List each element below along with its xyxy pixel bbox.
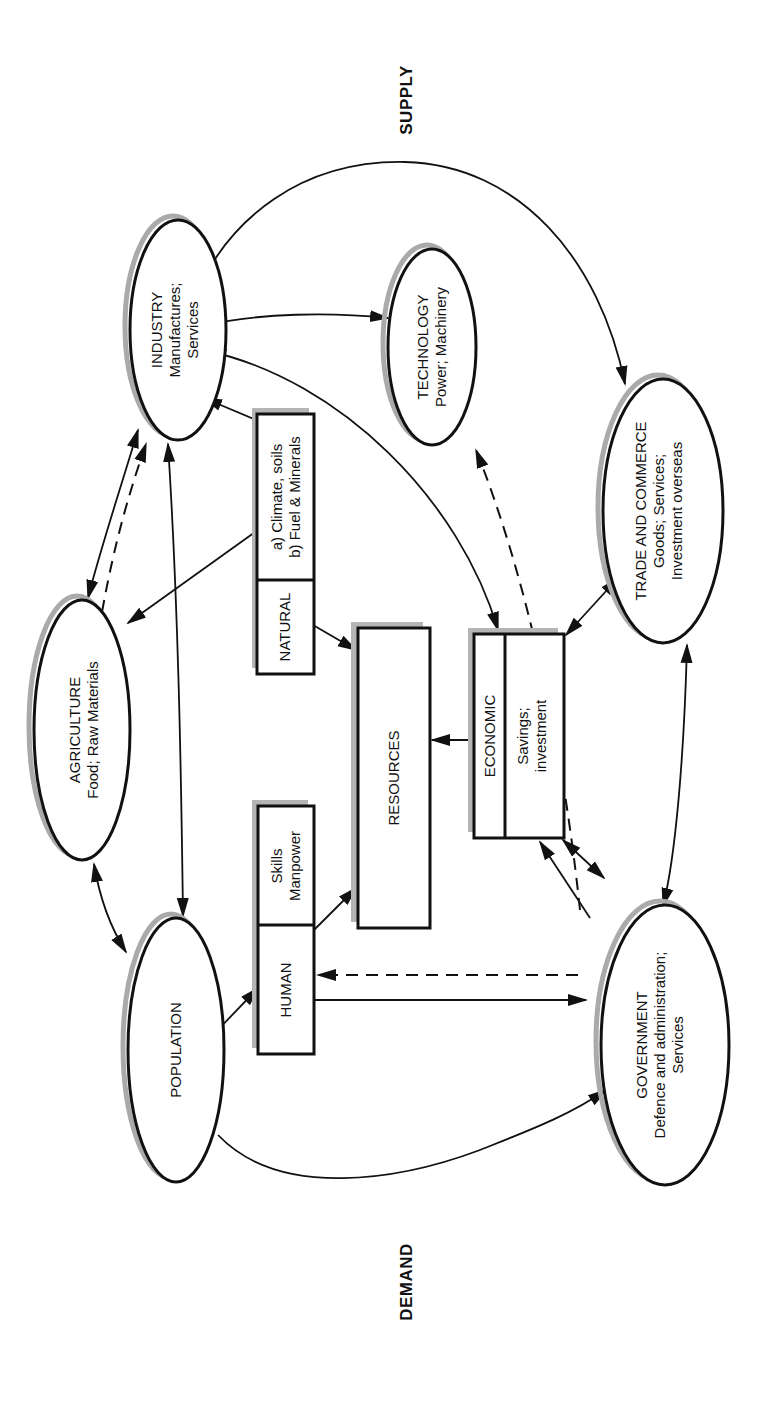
technology-title: TECHNOLOGY — [414, 294, 431, 399]
human-label: HUMAN — [277, 963, 294, 1018]
population-title: POPULATION — [167, 1002, 184, 1098]
diagram-stage: SUPPLY DEMAND — [0, 0, 758, 1424]
edge-human-resources — [314, 888, 356, 930]
supply-label: SUPPLY — [397, 65, 416, 135]
edge-industry-agriculture — [88, 430, 138, 598]
industry-title: INDUSTRY — [148, 292, 165, 368]
trade-title: TRADE AND COMMERCE — [632, 421, 649, 600]
edge-government-economic — [540, 842, 590, 918]
government-line-3: Services — [669, 1016, 686, 1074]
edge-natural-agriculture — [128, 530, 258, 623]
economic-line-2: investment — [532, 699, 549, 772]
natural-label: NATURAL — [276, 593, 293, 662]
economic-label: ECONOMIC — [481, 695, 498, 778]
industry-line-3: Services — [184, 301, 201, 359]
node-industry: INDUSTRY Manufactures; Services — [125, 216, 226, 440]
industry-line-2: Manufactures; — [166, 282, 183, 377]
natural-line-b: b) Fuel & Minerals — [286, 436, 303, 558]
node-government: GOVERNMENT Defence and administration; S… — [596, 901, 729, 1185]
agriculture-line-2: Food; Raw Materials — [84, 661, 101, 799]
government-title: GOVERNMENT — [633, 991, 650, 1099]
government-line-2: Defence and administration; — [651, 952, 668, 1139]
box-economic: ECONOMIC Savings; investment — [468, 628, 564, 838]
edge-economic-government — [563, 840, 604, 878]
economic-line-1: Savings; — [514, 707, 531, 765]
human-line-manpower: Manpower — [286, 831, 303, 901]
edge-population-industry — [168, 444, 183, 916]
edge-natural-resources — [313, 625, 356, 650]
edge-agriculture-population — [94, 864, 126, 952]
resources-label: RESOURCES — [385, 730, 402, 825]
box-natural: NATURAL a) Climate, soils b) Fuel & Mine… — [252, 408, 314, 674]
trade-line-3: Investment overseas — [668, 442, 685, 580]
trade-line-2: Goods; Services; — [650, 454, 667, 568]
human-line-skills: Skills — [268, 848, 285, 883]
node-technology: TECHNOLOGY Power; Machinery — [383, 245, 476, 445]
economy-diagram: SUPPLY DEMAND — [0, 0, 758, 1424]
box-human: HUMAN Skills Manpower — [252, 800, 314, 1054]
demand-label: DEMAND — [397, 1243, 416, 1321]
node-agriculture: AGRICULTURE Food; Raw Materials — [29, 596, 130, 860]
agriculture-title: AGRICULTURE — [66, 677, 83, 783]
node-population: POPULATION — [123, 914, 224, 1182]
edge-population-government — [218, 1090, 606, 1178]
box-resources: RESOURCES — [351, 622, 430, 928]
edge-industry-technology — [207, 314, 388, 325]
edge-trade-government — [663, 645, 687, 906]
technology-line-2: Power; Machinery — [432, 286, 449, 407]
natural-line-a: a) Climate, soils — [268, 444, 285, 551]
node-trade-and-commerce: TRADE AND COMMERCE Goods; Services; Inve… — [598, 375, 723, 643]
